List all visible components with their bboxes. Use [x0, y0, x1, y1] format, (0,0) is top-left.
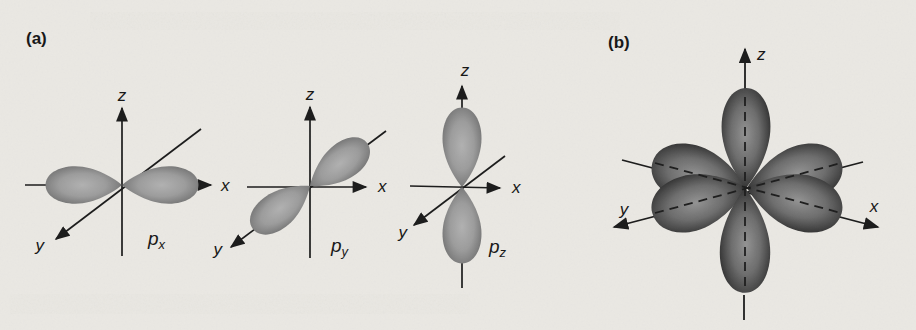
- pz-z-label: z: [460, 61, 470, 80]
- px-diagram: z x y px: [25, 86, 230, 256]
- pz-diagram: z x y pz: [398, 61, 522, 288]
- py-z-label: z: [305, 85, 315, 104]
- b-x-label: x: [869, 197, 879, 216]
- px-z-label: z: [117, 86, 127, 105]
- scan-artifact-bottom: [10, 294, 470, 314]
- textbook-figure-p-orbitals: (a) z x y px z x y py: [0, 0, 916, 330]
- pz-x-axis: [410, 186, 500, 188]
- panel-b: (b) z x y: [608, 33, 879, 320]
- orbital-figure-canvas: (a) z x y px z x y py: [0, 0, 916, 330]
- panel-a: (a) z x y px z x y py: [25, 29, 521, 288]
- py-lobe-negative: [299, 129, 378, 201]
- pz-y-label: y: [398, 223, 409, 242]
- px-lobe-positive: [122, 166, 198, 203]
- pz-x-label: x: [511, 178, 521, 197]
- py-orbital-label: py: [330, 235, 350, 259]
- panel-a-label: (a): [26, 29, 47, 48]
- b-y-label: y: [619, 200, 630, 219]
- py-y-label: y: [213, 240, 224, 259]
- pz-orbital-label: pz: [488, 236, 507, 260]
- pz-lobe-positive: [443, 108, 482, 187]
- px-orbital-label: px: [147, 228, 166, 252]
- px-y-label: y: [35, 236, 46, 255]
- py-x-label: x: [377, 177, 387, 196]
- scan-artifact-top: [90, 12, 620, 30]
- b-z-label: z: [756, 45, 766, 64]
- panel-b-label: (b): [608, 33, 630, 52]
- px-x-label: x: [220, 176, 230, 195]
- py-lobe-positive: [242, 171, 321, 243]
- py-diagram: z x y py: [213, 85, 388, 259]
